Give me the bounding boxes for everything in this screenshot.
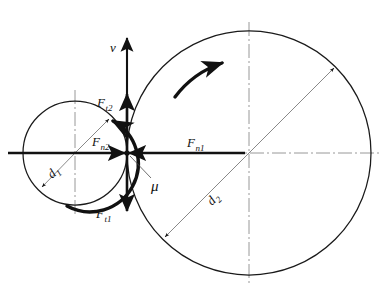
normal-force-1-label-sub: n1 [195, 143, 204, 153]
friction-coefficient-label-base: μ [150, 178, 159, 194]
friction-coefficient-leader-line [130, 156, 151, 178]
diagram-canvas: v Ft2 Fn2 Ft1 Fn1 μ [0, 0, 388, 289]
contact-point-marker [124, 150, 129, 155]
tangential-force-1-label-sub: t1 [104, 214, 111, 224]
normal-force-2-label-sub: n2 [100, 142, 110, 152]
normal-force-2-label: Fn2 [91, 134, 110, 152]
friction-coefficient-label: μ [150, 178, 159, 194]
normal-force-1-label: Fn1 [186, 135, 204, 153]
labels-group: v Ft2 Fn2 Ft1 Fn1 μ [44, 40, 224, 224]
tangential-force-2-label: Ft2 [96, 95, 113, 113]
velocity-label: v [110, 40, 116, 55]
diameter-2-label: d2 [203, 189, 224, 210]
friction-wheel-diagram: v Ft2 Fn2 Ft1 Fn1 μ [0, 0, 388, 289]
velocity-label-base: v [110, 40, 116, 55]
diameter-2-leader-line [249, 68, 334, 153]
wheel-2-rotation-arrow [175, 63, 222, 97]
friction-coefficient-group [130, 156, 151, 178]
tangential-force-2-label-sub: t2 [105, 103, 113, 113]
diameter-1-label: d1 [44, 162, 64, 182]
